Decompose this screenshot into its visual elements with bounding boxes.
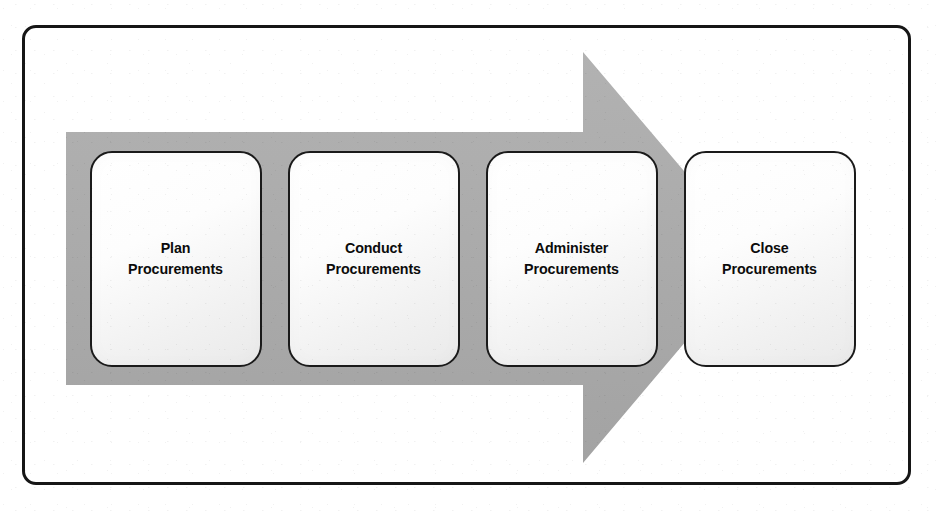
- stage-box-conduct-procurements[interactable]: Conduct Procurements: [288, 151, 460, 367]
- stage-box-close-procurements[interactable]: Close Procurements: [684, 151, 856, 367]
- stage-label-plan-procurements: Plan Procurements: [125, 238, 227, 280]
- stage-label-close-procurements: Close Procurements: [719, 238, 821, 280]
- process-stage-list: Plan Procurements Conduct Procurements A…: [90, 151, 856, 367]
- stage-label-administer-procurements: Administer Procurements: [521, 238, 623, 280]
- diagram-canvas: Plan Procurements Conduct Procurements A…: [0, 0, 939, 514]
- stage-box-plan-procurements[interactable]: Plan Procurements: [90, 151, 262, 367]
- stage-label-conduct-procurements: Conduct Procurements: [323, 238, 425, 280]
- stage-box-administer-procurements[interactable]: Administer Procurements: [486, 151, 658, 367]
